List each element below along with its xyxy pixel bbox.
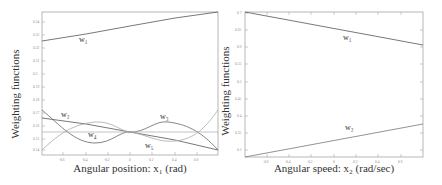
svg-text:0.21: 0.21 xyxy=(33,59,39,63)
right-plot-frame xyxy=(245,12,423,157)
right-y-axis-title: Weighting functions xyxy=(219,46,231,136)
svg-text:0.16: 0.16 xyxy=(33,124,39,128)
left-label-w1: w₁ xyxy=(79,35,88,44)
right-curve-w1 xyxy=(245,12,423,45)
svg-text:0.15: 0.15 xyxy=(33,137,39,141)
svg-text:0.17: 0.17 xyxy=(33,111,39,115)
right-label-w2: w₂ xyxy=(345,123,354,132)
svg-text:0.14: 0.14 xyxy=(33,148,39,152)
left-x-axis-title: Angular position: x₁ (rad) xyxy=(42,162,218,174)
svg-text:0.5: 0.5 xyxy=(237,80,242,84)
right-x-ticks xyxy=(267,12,401,157)
svg-text:0.23: 0.23 xyxy=(33,33,39,37)
right-tick-labels: 0.70.650.6 0.550.50.45 0.40.350.3 -0.6-0… xyxy=(235,11,403,164)
left-label-w2: w₂ xyxy=(61,110,70,119)
left-curve-w1 xyxy=(42,12,218,41)
left-plot-frame xyxy=(42,12,218,155)
left-tick-labels: 0.240.230.22 0.210.20.19 0.180.170.16 0.… xyxy=(33,20,199,162)
left-x-ticks xyxy=(63,152,197,155)
svg-text:0.45: 0.45 xyxy=(235,97,241,101)
right-chart-plot: 0.70.650.6 0.550.50.45 0.40.350.3 -0.6-0… xyxy=(221,0,442,185)
svg-text:0.2: 0.2 xyxy=(33,72,38,76)
right-x-axis-title: Angular speed: x₂ (rad/sec) xyxy=(245,162,423,174)
svg-text:0.4: 0.4 xyxy=(237,114,242,118)
svg-text:0.22: 0.22 xyxy=(33,46,39,50)
svg-text:0.19: 0.19 xyxy=(33,85,39,89)
svg-text:0.55: 0.55 xyxy=(235,62,241,66)
right-curve-w2 xyxy=(245,124,423,157)
svg-text:0.3: 0.3 xyxy=(237,148,242,152)
left-label-w4: w₄ xyxy=(88,130,97,139)
svg-text:0.24: 0.24 xyxy=(33,20,39,24)
left-chart-plot: 0.240.230.22 0.210.20.19 0.180.170.16 0.… xyxy=(0,0,221,185)
left-label-w5: w₅ xyxy=(145,141,154,150)
svg-text:0.7: 0.7 xyxy=(237,11,242,15)
right-label-w1: w₁ xyxy=(343,33,352,42)
left-label-w3: w₃ xyxy=(160,112,169,121)
svg-text:0.35: 0.35 xyxy=(235,131,241,135)
svg-text:0.6: 0.6 xyxy=(237,45,242,49)
right-y-ticks xyxy=(245,13,423,150)
svg-text:0.65: 0.65 xyxy=(235,28,241,32)
right-chart-panel: 0.70.650.6 0.550.50.45 0.40.350.3 -0.6-0… xyxy=(221,0,442,185)
left-curve-w2 xyxy=(42,118,218,150)
svg-text:0.18: 0.18 xyxy=(33,98,39,102)
left-y-axis-title: Weighting functions xyxy=(9,49,21,139)
left-chart-panel: 0.240.230.22 0.210.20.19 0.180.170.16 0.… xyxy=(0,0,221,185)
